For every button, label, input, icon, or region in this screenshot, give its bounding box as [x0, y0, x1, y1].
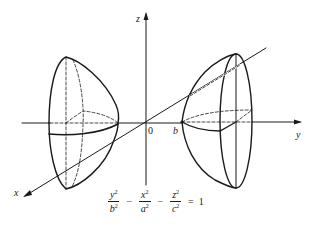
x-axis-label: x [14, 188, 18, 198]
x-axis-arrow [23, 190, 32, 197]
equation-term-x: x2 a2 [139, 189, 150, 214]
y-axis-arrow [294, 120, 302, 125]
equation-minus: − [126, 196, 132, 207]
z-axis-label: z [136, 14, 140, 24]
equation: y2 b2 − x2 a2 − z2 c2 = 1 [106, 189, 204, 214]
left-sheet-cross-back [66, 111, 118, 123]
z-axis-arrow [144, 12, 149, 20]
equation-term-y: y2 b2 [108, 189, 119, 214]
vertex-point [180, 120, 183, 123]
equation-term-z: z2 c2 [170, 189, 181, 214]
left-sheet-cross-front [49, 124, 118, 135]
vertex-label: b [173, 126, 178, 136]
origin-label: 0 [148, 126, 153, 136]
right-sheet-cross-front [182, 122, 236, 131]
equation-rhs: 1 [199, 196, 204, 207]
equation-minus: − [158, 196, 164, 207]
left-sheet-outline-upper [49, 57, 119, 123]
right-sheet-dash-diag [236, 110, 252, 122]
left-sheet-dash-curve [72, 60, 83, 187]
equation-equals: = [188, 196, 194, 207]
right-sheet-cross-back [182, 110, 252, 122]
y-axis-label: y [296, 130, 300, 140]
